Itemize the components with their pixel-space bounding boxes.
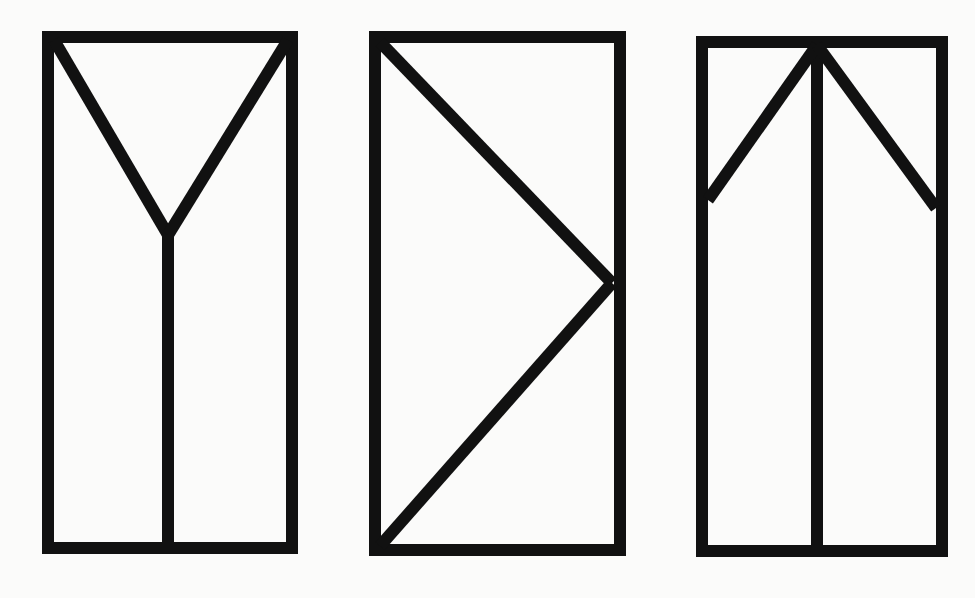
lower-diagonal-line: [380, 283, 612, 546]
figure-chevron-in-rectangle: [375, 37, 620, 550]
outer-rectangle: [375, 37, 620, 550]
figure-y-in-rectangle: [48, 37, 292, 548]
right-diagonal-line: [168, 40, 288, 235]
upper-diagonal-line: [380, 42, 612, 283]
left-arrow-wing-line: [708, 45, 817, 200]
figure-arrow-in-rectangle: [702, 42, 942, 551]
diagram-canvas: [0, 0, 975, 598]
right-arrow-wing-line: [817, 45, 936, 208]
left-diagonal-line: [54, 40, 168, 235]
